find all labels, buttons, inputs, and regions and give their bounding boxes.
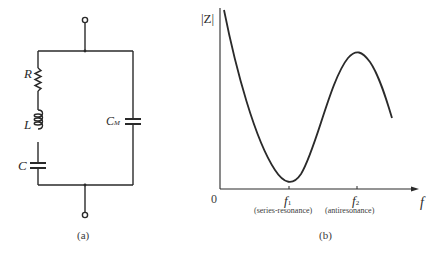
inductor-icon xyxy=(34,110,42,129)
capacitor-icon xyxy=(30,163,46,168)
y-axis-label: |Z| xyxy=(201,11,214,27)
diagram-canvas xyxy=(0,0,440,257)
circuit-schematic xyxy=(30,17,141,217)
origin-label: 0 xyxy=(211,192,217,207)
x-axis-arrow-icon xyxy=(411,187,419,192)
top-terminal-icon xyxy=(82,17,87,22)
impedance-plot xyxy=(220,8,419,192)
resistor-label: R xyxy=(24,66,32,82)
motional-capacitor-icon xyxy=(125,119,141,124)
panel-b-caption: (b) xyxy=(319,229,332,241)
motional-capacitor-label: CM xyxy=(106,114,120,129)
resistor-icon xyxy=(35,68,41,91)
capacitor-label: C xyxy=(18,158,27,174)
inductor-label: L xyxy=(24,117,31,133)
impedance-curve xyxy=(224,10,392,182)
panel-a-caption: (a) xyxy=(77,229,89,241)
bottom-terminal-icon xyxy=(82,212,87,217)
x-axis-label: f xyxy=(420,195,424,211)
f2-note: (antiresonance) xyxy=(325,206,374,215)
f1-note: (series-resonance) xyxy=(254,206,312,215)
